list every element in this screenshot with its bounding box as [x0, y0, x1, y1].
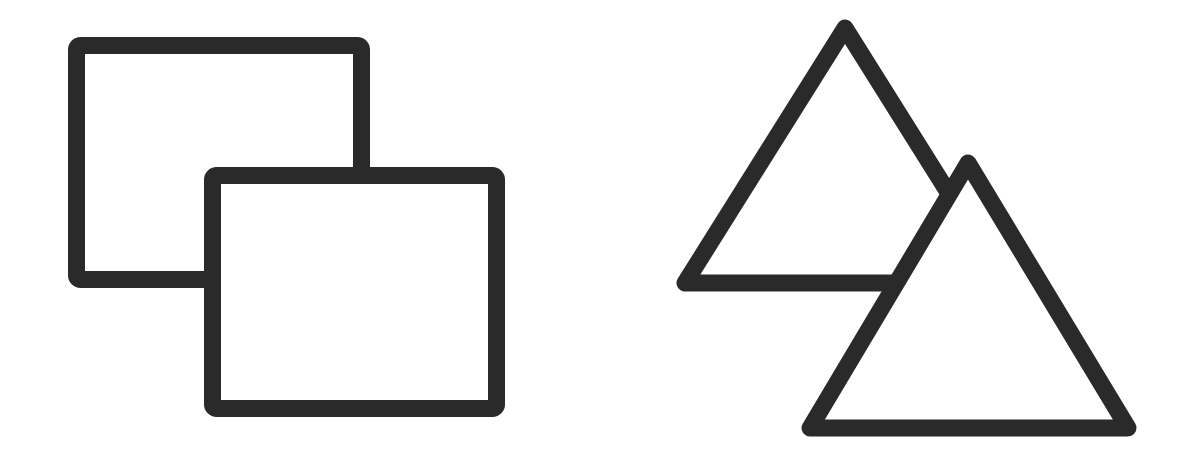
diagram-canvas — [0, 0, 1198, 462]
front-rectangle — [213, 176, 497, 409]
